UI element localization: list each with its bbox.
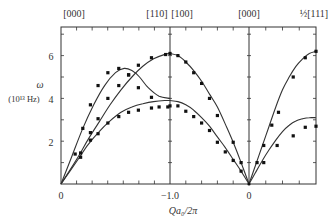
data-point bbox=[117, 67, 120, 70]
data-point bbox=[127, 111, 130, 114]
data-point bbox=[232, 159, 235, 162]
data-point bbox=[150, 106, 153, 109]
dispersion-curve bbox=[61, 68, 170, 184]
data-point bbox=[96, 84, 99, 87]
top-label-100: [100] bbox=[171, 8, 193, 19]
dispersion-curve bbox=[170, 101, 249, 185]
y-axis-label: ω bbox=[36, 79, 43, 90]
data-point bbox=[262, 144, 265, 147]
data-point bbox=[96, 132, 99, 135]
data-point bbox=[137, 109, 140, 112]
data-point bbox=[314, 50, 317, 53]
x-tick-label-minus-1: −1.0 bbox=[161, 190, 179, 201]
data-point bbox=[117, 84, 120, 87]
data-point bbox=[176, 104, 179, 107]
data-point bbox=[270, 124, 273, 127]
measured-points bbox=[74, 50, 318, 186]
plot-frame bbox=[61, 27, 316, 184]
data-point bbox=[184, 110, 187, 113]
data-point bbox=[96, 117, 99, 120]
data-point bbox=[200, 82, 203, 85]
data-point bbox=[106, 97, 109, 100]
data-point bbox=[150, 56, 153, 59]
data-point bbox=[127, 73, 130, 76]
data-point bbox=[158, 105, 161, 108]
y-axis-units: (10¹³ Hz) bbox=[8, 94, 39, 104]
data-point bbox=[79, 151, 82, 154]
top-label-000-left: [000] bbox=[63, 8, 85, 19]
data-point bbox=[232, 141, 235, 144]
x-tick-label-0-left: 0 bbox=[59, 190, 64, 201]
data-point bbox=[106, 71, 109, 74]
data-point bbox=[137, 64, 140, 67]
y-tick-label-4: 4 bbox=[49, 94, 54, 105]
data-point bbox=[168, 52, 171, 55]
data-point bbox=[240, 170, 243, 173]
data-point bbox=[292, 75, 295, 78]
data-point bbox=[74, 152, 77, 155]
x-tick-label-0-middle: 0 bbox=[247, 190, 252, 201]
data-point bbox=[106, 121, 109, 124]
data-point bbox=[304, 56, 307, 59]
axis-ticks bbox=[61, 27, 316, 184]
data-point bbox=[216, 141, 219, 144]
phonon-dispersion-chart: [000] [110] [100] [000] ½[111] 6 4 2 ω (… bbox=[0, 0, 331, 222]
data-point bbox=[150, 96, 153, 99]
data-point bbox=[81, 127, 84, 130]
top-label-000-middle: [000] bbox=[238, 8, 260, 19]
data-point bbox=[79, 156, 82, 159]
top-label-110: [110] bbox=[146, 8, 167, 19]
data-point bbox=[208, 129, 211, 132]
data-point bbox=[117, 115, 120, 118]
top-label-111-half: ½[111] bbox=[300, 8, 328, 19]
data-point bbox=[89, 131, 92, 134]
y-tick-label-2: 2 bbox=[49, 137, 54, 148]
data-point bbox=[292, 134, 295, 137]
data-point bbox=[255, 161, 258, 164]
data-point bbox=[224, 150, 227, 153]
data-point bbox=[192, 115, 195, 118]
data-point bbox=[208, 97, 211, 100]
data-point bbox=[176, 54, 179, 57]
data-point bbox=[200, 121, 203, 124]
data-point bbox=[304, 126, 307, 129]
data-point bbox=[168, 104, 171, 107]
data-point bbox=[240, 161, 243, 164]
data-point bbox=[164, 53, 167, 56]
data-point bbox=[192, 71, 195, 74]
data-point bbox=[89, 103, 92, 106]
y-tick-label-6: 6 bbox=[49, 51, 54, 62]
data-point bbox=[277, 111, 280, 114]
data-point bbox=[262, 161, 265, 164]
data-point bbox=[216, 114, 219, 117]
data-point bbox=[137, 86, 140, 89]
data-point bbox=[314, 125, 317, 128]
data-point bbox=[184, 60, 187, 63]
x-axis-label: Qa₀/2π bbox=[169, 205, 198, 216]
data-point bbox=[89, 139, 92, 142]
data-point bbox=[276, 144, 279, 147]
